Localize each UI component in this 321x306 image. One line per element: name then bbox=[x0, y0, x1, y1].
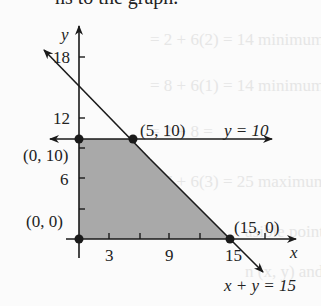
y-axis-label: y bbox=[61, 26, 69, 43]
vertex-point bbox=[75, 235, 84, 244]
y-tick-label: 18 bbox=[53, 49, 70, 66]
y-tick-label: 12 bbox=[53, 110, 70, 127]
point-label-15-0: (15, 0) bbox=[234, 219, 279, 236]
x-tick-label: 3 bbox=[105, 247, 114, 264]
x-tick-label: 15 bbox=[225, 247, 242, 264]
feasible-region bbox=[79, 139, 230, 239]
point-label-5-10: (5, 10) bbox=[140, 122, 185, 139]
vertex-point bbox=[75, 135, 84, 144]
point-label-0-10: (0, 10) bbox=[23, 147, 68, 164]
vertex-point bbox=[129, 135, 138, 144]
point-label-origin: (0, 0) bbox=[26, 213, 63, 230]
y-tick-label: 6 bbox=[60, 171, 69, 188]
x-tick-label: 9 bbox=[165, 247, 174, 264]
x-axis-label: x bbox=[290, 244, 298, 261]
line-label-y-equals-10: y = 10 bbox=[224, 122, 269, 139]
line-label-x-plus-y-equals-15: x + y = 15 bbox=[224, 277, 296, 294]
